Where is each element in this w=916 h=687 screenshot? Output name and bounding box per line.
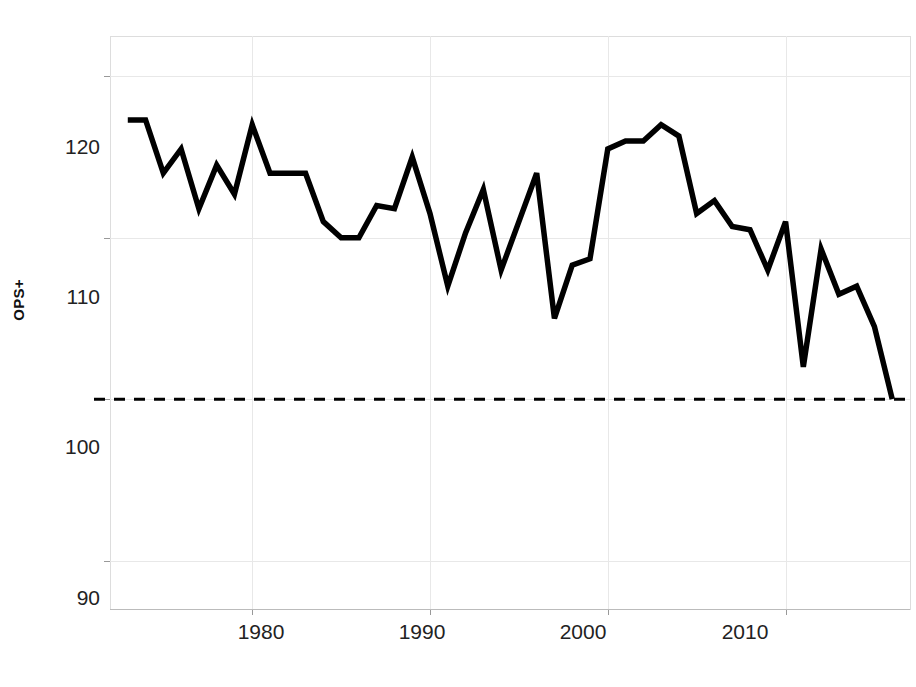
vertical-gridlines <box>253 36 787 609</box>
horizontal-gridlines <box>110 77 910 562</box>
axis-tick-marks <box>104 77 910 616</box>
plot-frame <box>111 37 911 610</box>
data-series-line-ops-plus <box>128 120 892 399</box>
chart-figure: OPS+ 120 110 100 90 1980 1990 2000 2010 <box>0 0 916 687</box>
plot-area <box>0 0 916 687</box>
